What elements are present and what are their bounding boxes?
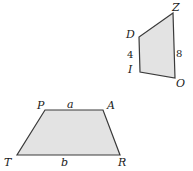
vertex-label-z: Z bbox=[172, 2, 180, 13]
side-label-a: a bbox=[67, 99, 74, 110]
vertex-label-t: T bbox=[4, 157, 11, 168]
side-label-b: b bbox=[61, 157, 68, 168]
quadrilateral-ZDIO-shape bbox=[139, 13, 175, 78]
vertex-label-d: D bbox=[126, 29, 135, 40]
vertex-label-i: I bbox=[128, 64, 132, 75]
vertex-label-r: R bbox=[118, 157, 126, 168]
vertex-label-a: A bbox=[107, 100, 115, 111]
measure-label-8: 8 bbox=[176, 48, 182, 59]
trapezoid-PATR-shape bbox=[17, 110, 120, 155]
vertex-label-p: P bbox=[37, 100, 44, 111]
measure-label-4: 4 bbox=[127, 49, 133, 60]
geometry-diagram-canvas bbox=[0, 0, 193, 171]
vertex-label-o: O bbox=[176, 78, 185, 89]
